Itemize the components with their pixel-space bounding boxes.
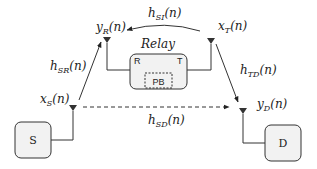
channel-sd-label: hSD(n) [148,113,185,129]
destination-label: D [279,137,288,150]
source-label: S [29,134,37,147]
destination-node: D [265,125,301,161]
signal-x-t-label: xT(n) [218,19,248,35]
channel-td-label: hTD(n) [240,63,277,79]
relay-transmit-feed [187,44,211,70]
relay-receive-antenna-icon [103,37,111,43]
channel-td-arrow [216,44,238,102]
source-antenna-icon [69,105,77,111]
destination-feed-line [243,114,265,143]
channel-si-label: hSI(n) [148,6,182,22]
relay-transmit-antenna-icon [207,38,215,44]
relay-buffer-label: PB [152,77,164,87]
relay-title: Relay [140,37,175,51]
relay-receive-feed [107,43,130,70]
source-node: S [15,122,51,158]
source-feed-line [51,111,73,140]
relay-diagram: S D R T PB Relay yR(n) xT(n) xS(n) yD(n) [0,0,317,169]
signal-x-s-label: xS(n) [40,92,70,108]
relay-receive-port: R [134,56,141,66]
channel-sr-label: hSR(n) [50,59,87,75]
signal-y-d-label: yD(n) [256,97,288,113]
relay-transmit-port: T [177,56,183,66]
channel-si-arrow [127,25,200,31]
relay-node: R T PB [130,54,187,89]
destination-antenna-icon [239,108,247,114]
signal-y-r-label: yR(n) [95,20,126,36]
